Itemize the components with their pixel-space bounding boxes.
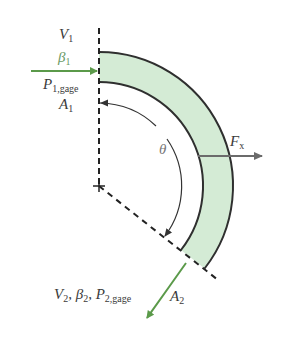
angle-arc-lower (165, 139, 182, 236)
outlet-properties-label: V2, β2, P2,gage (54, 287, 131, 304)
inlet-area-label: A1 (59, 97, 73, 114)
inlet-momentum-factor-label: β1 (58, 50, 70, 67)
inlet-velocity-label: V1 (59, 27, 73, 44)
angle-arc-start-arrow-icon (100, 100, 108, 107)
angle-label: θ (159, 142, 166, 157)
outlet-area-label: A2 (170, 289, 184, 306)
inlet-pressure-label: P1,gage (43, 77, 79, 94)
pipe-bend-diagram (0, 0, 285, 345)
angle-arc (100, 103, 156, 126)
force-x-label: Fx (230, 134, 244, 151)
